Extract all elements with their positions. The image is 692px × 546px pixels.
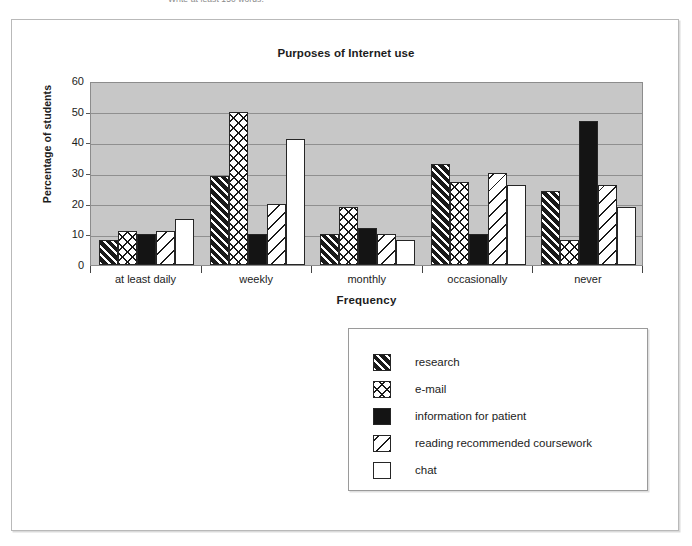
bar-group — [99, 83, 194, 265]
bar — [118, 231, 137, 265]
bar — [617, 207, 636, 265]
y-axis-title: Percentage of students — [41, 49, 53, 239]
bar — [507, 185, 526, 265]
x-tick-mark — [90, 266, 91, 273]
plot-area — [90, 82, 643, 266]
bar — [431, 164, 450, 265]
legend-item: reading recommended coursework — [373, 434, 592, 452]
bar — [229, 112, 248, 265]
figure-frame: Purposes of Internet use Percentage of s… — [11, 19, 679, 531]
bar-group — [541, 83, 636, 265]
bar — [579, 121, 598, 265]
bar — [598, 185, 617, 265]
legend-item: e-mail — [373, 380, 446, 398]
legend-swatch-light-diagonal-hatch — [373, 435, 391, 452]
bar — [377, 234, 396, 265]
bar — [396, 240, 415, 265]
legend-item: research — [373, 353, 460, 371]
x-tick-label: monthly — [347, 273, 386, 285]
x-tick-mark — [422, 266, 423, 273]
legend-item: chat — [373, 461, 437, 479]
legend-label: reading recommended coursework — [415, 437, 592, 449]
bar — [175, 219, 194, 265]
chart-legend: researche-mailinformation for patientrea… — [348, 328, 648, 491]
x-axis-title: Frequency — [90, 294, 643, 306]
legend-label: research — [415, 356, 460, 368]
x-tick-mark — [311, 266, 312, 273]
bar — [541, 191, 560, 265]
y-tick-label: 40 — [58, 136, 84, 148]
y-tick-label: 10 — [58, 228, 84, 240]
bar — [358, 228, 377, 265]
bar — [450, 182, 469, 265]
y-tick-label: 50 — [58, 106, 84, 118]
x-tick-label: weekly — [239, 273, 273, 285]
x-tick-label: occasionally — [447, 273, 507, 285]
bar — [560, 240, 579, 265]
bar-group — [320, 83, 415, 265]
bar — [488, 173, 507, 265]
legend-label: chat — [415, 464, 437, 476]
page-caption-text: Write at least 150 words. — [168, 0, 264, 4]
y-tick-label: 20 — [58, 198, 84, 210]
bar — [469, 234, 488, 265]
y-tick-label: 0 — [58, 259, 84, 271]
page-caption-strip: Write at least 150 words. — [0, 0, 692, 14]
x-tick-mark — [201, 266, 202, 273]
bar — [156, 231, 175, 265]
x-tick-mark — [642, 266, 643, 273]
legend-swatch-solid-black — [373, 408, 391, 425]
bar — [339, 207, 358, 265]
legend-item: information for patient — [373, 407, 526, 425]
bar — [210, 176, 229, 265]
y-axis-ticks: 0102030405060 — [56, 82, 84, 266]
legend-swatch-dark-diagonal-hatch — [373, 354, 391, 371]
legend-label: information for patient — [415, 410, 526, 422]
bar-group — [210, 83, 305, 265]
legend-swatch-cross-hatch — [373, 381, 391, 398]
x-tick-mark — [532, 266, 533, 273]
x-tick-label: at least daily — [115, 273, 176, 285]
y-tick-label: 60 — [58, 75, 84, 87]
bar — [320, 234, 339, 265]
y-tick-label: 30 — [58, 167, 84, 179]
x-tick-label: never — [574, 273, 602, 285]
bar-group — [431, 83, 526, 265]
chart-title: Purposes of Internet use — [12, 47, 680, 59]
bar — [286, 139, 305, 265]
bar — [99, 240, 118, 265]
legend-swatch-white — [373, 462, 391, 479]
legend-label: e-mail — [415, 383, 446, 395]
bar — [267, 204, 286, 265]
bar — [248, 234, 267, 265]
bar — [137, 234, 156, 265]
